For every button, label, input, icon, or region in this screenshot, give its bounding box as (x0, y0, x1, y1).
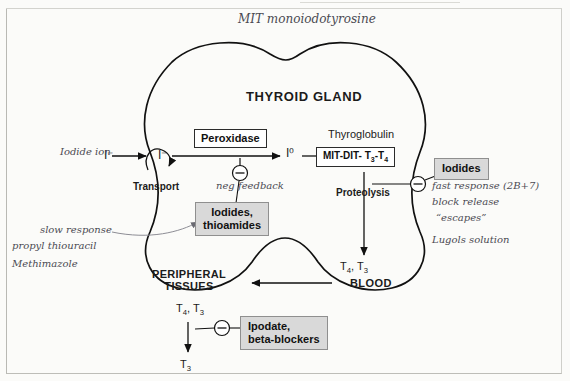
ipodate-line1: Ipodate, (248, 320, 320, 333)
handwritten-fast-response: fast response (2B+7) (432, 180, 539, 191)
handwritten-slow-response: slow response (40, 224, 112, 235)
handwritten-neg-feedback: neg feedback (216, 180, 284, 191)
transport-label: Transport (133, 181, 179, 192)
handwritten-iodide-ion: Iodide ion (60, 146, 111, 157)
mit-dit-t3-t4-box: MIT-DIT- T3-T4 (316, 147, 395, 167)
iodine-zero-symbol: I⁰ (286, 146, 294, 160)
handwritten-lugols: Lugols solution (432, 234, 509, 245)
peripheral-tissues-label: PERIPHERAL TISSUES (152, 268, 226, 292)
peroxidase-box: Peroxidase (194, 129, 267, 148)
mit-dit-t3-t4-text: MIT-DIT- T3-T4 (323, 150, 388, 161)
thyroglobulin-label: Thyroglobulin (328, 128, 394, 140)
iodides-thioamides-box: Iodides, thioamides (195, 202, 269, 236)
ipodate-line2: beta-blockers (248, 333, 320, 346)
tissue-hormones: T4, T3 (176, 302, 204, 317)
peripheral-tissues-line2: TISSUES (152, 280, 226, 292)
iodides-box: Iodides (434, 158, 489, 180)
ipodate-beta-blockers-box: Ipodate, beta-blockers (240, 316, 328, 350)
iodide-ion-symbol-inside: I⁻ (158, 148, 167, 162)
handwritten-escapes: “escapes” (436, 212, 486, 223)
handwritten-methimazole: Methimazole (12, 258, 78, 269)
gland-title: THYROID GLAND (246, 89, 362, 104)
peripheral-tissues-line1: PERIPHERAL (152, 268, 226, 280)
iodides-thioamides-line2: thioamides (203, 219, 261, 232)
handwritten-block-release: block release (432, 196, 499, 207)
blood-label: BLOOD (350, 277, 392, 289)
iodides-thioamides-line1: Iodides, (203, 206, 261, 219)
blood-hormones: T4, T3 (340, 260, 368, 275)
handwritten-propylthiouracil: propyl thiouracil (12, 240, 97, 251)
handwritten-note-mit: MIT monoiodotyrosine (238, 12, 376, 26)
t3-final: T3 (180, 358, 191, 373)
proteolysis-label: Proteolysis (336, 187, 390, 198)
